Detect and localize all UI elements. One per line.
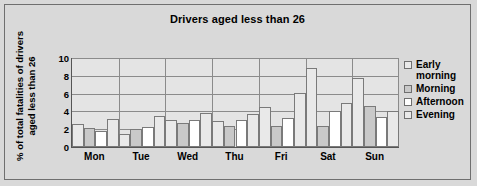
y-tick-label-8: 8 <box>51 72 69 81</box>
y-axis-ticks: 1086420 <box>49 58 69 148</box>
bar-wed-evening <box>200 113 212 147</box>
x-tick-label-fri: Fri <box>258 151 305 162</box>
bar-sat-early-morning <box>306 68 318 147</box>
legend-label-line-1: Afternoon <box>416 96 464 107</box>
legend-swatch-icon-evening <box>404 111 412 119</box>
bar-sat-morning <box>317 126 329 147</box>
plot-inner <box>72 58 399 147</box>
bar-tue-evening <box>154 116 166 147</box>
bar-tue-early-morning <box>119 134 131 147</box>
x-tick-label-sat: Sat <box>305 151 352 162</box>
bar-fri-morning <box>271 126 283 147</box>
bar-mon-morning <box>84 128 96 147</box>
bar-sun-early-morning <box>352 78 364 147</box>
legend-item-evening[interactable]: Evening <box>404 109 477 120</box>
x-axis-ticks: MonTueWedThuFriSatSun <box>71 151 399 165</box>
chart-frame: Drivers aged less than 26 % of total fat… <box>4 4 471 180</box>
bar-sun-afternoon <box>376 117 388 147</box>
bar-sat-evening <box>341 103 353 147</box>
legend-label-line-1: Morning <box>416 83 455 94</box>
legend-swatch-icon-early-morning <box>404 61 412 69</box>
y-tick-label-4: 4 <box>51 107 69 116</box>
bar-thu-evening <box>247 114 259 147</box>
bar-mon-evening <box>107 119 119 147</box>
bar-sun-morning <box>364 106 376 147</box>
x-tick-label-mon: Mon <box>71 151 118 162</box>
y-tick-label-2: 2 <box>51 125 69 134</box>
y-tick-label-10: 10 <box>51 54 69 63</box>
legend-label-line-2: morning <box>416 70 456 81</box>
y-axis-label-line-1: % of total fatalities of drivers <box>14 23 26 169</box>
bar-wed-morning <box>177 123 189 147</box>
y-axis-label: % of total fatalities of drivers aged le… <box>11 23 41 169</box>
bar-tue-morning <box>130 129 142 147</box>
chart-legend: EarlymorningMorningAfternoonEvening <box>404 59 477 122</box>
x-tick-label-thu: Thu <box>211 151 258 162</box>
legend-swatch-icon-morning <box>404 85 412 93</box>
bar-wed-afternoon <box>189 120 201 147</box>
bar-thu-early-morning <box>212 121 224 147</box>
y-tick-label-6: 6 <box>51 90 69 99</box>
legend-label-line-1: Early <box>416 59 456 70</box>
legend-item-afternoon[interactable]: Afternoon <box>404 96 477 107</box>
y-tick-label-0: 0 <box>51 143 69 152</box>
legend-item-early-morning[interactable]: Earlymorning <box>404 59 477 81</box>
legend-item-morning[interactable]: Morning <box>404 83 477 94</box>
gridline-10 <box>72 58 399 59</box>
gridline-6 <box>72 94 399 95</box>
bar-mon-early-morning <box>72 124 84 147</box>
bar-sat-afternoon <box>329 111 341 147</box>
legend-swatch-icon-afternoon <box>404 98 412 106</box>
x-tick-label-tue: Tue <box>118 151 165 162</box>
bar-fri-early-morning <box>259 107 271 147</box>
bar-wed-early-morning <box>165 120 177 147</box>
bar-thu-morning <box>224 126 236 147</box>
legend-label-morning: Morning <box>416 83 455 94</box>
legend-label-evening: Evening <box>416 109 455 120</box>
chart-title: Drivers aged less than 26 <box>5 13 470 25</box>
legend-label-early-morning: Earlymorning <box>416 59 456 81</box>
bar-fri-evening <box>294 93 306 147</box>
gridline-8 <box>72 76 399 77</box>
legend-label-afternoon: Afternoon <box>416 96 464 107</box>
y-axis-label-line-2: aged less than 26 <box>26 23 38 169</box>
bar-fri-afternoon <box>282 118 294 147</box>
bar-thu-afternoon <box>236 120 248 147</box>
bar-mon-afternoon <box>95 131 107 147</box>
x-tick-label-sun: Sun <box>351 151 398 162</box>
x-tick-label-wed: Wed <box>164 151 211 162</box>
bar-sun-evening <box>387 111 399 147</box>
legend-label-line-1: Evening <box>416 109 455 120</box>
plot-area <box>71 58 399 148</box>
bar-tue-afternoon <box>142 127 154 147</box>
